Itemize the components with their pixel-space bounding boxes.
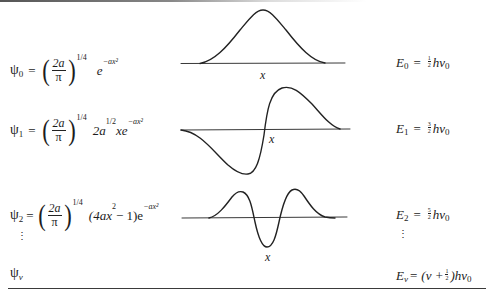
psi1-x-label: x	[269, 132, 274, 147]
bottom-rule	[8, 288, 486, 289]
psi1-plot	[181, 87, 350, 174]
psi2-x-label: x	[265, 250, 270, 265]
psi0-x-label: x	[260, 68, 265, 83]
psi2-plot	[182, 189, 347, 247]
energy-1: E1 = 32 hν0	[396, 122, 450, 135]
psi1-axis	[181, 129, 350, 130]
energy-v: Ev = (v + 12 )hν0	[396, 269, 472, 282]
energy-0: E0 = 12 hν0	[396, 56, 450, 69]
energy-2: E2 = 52 hν0	[396, 208, 450, 221]
psi0-curve	[200, 10, 325, 64]
psi2-axis	[182, 217, 347, 218]
energy-ellipsis: ⋮	[398, 230, 404, 238]
wavefunction-plots	[0, 0, 489, 301]
psi0-axis	[181, 63, 345, 64]
psi1-curve	[181, 87, 340, 174]
psi0-plot	[181, 10, 345, 64]
